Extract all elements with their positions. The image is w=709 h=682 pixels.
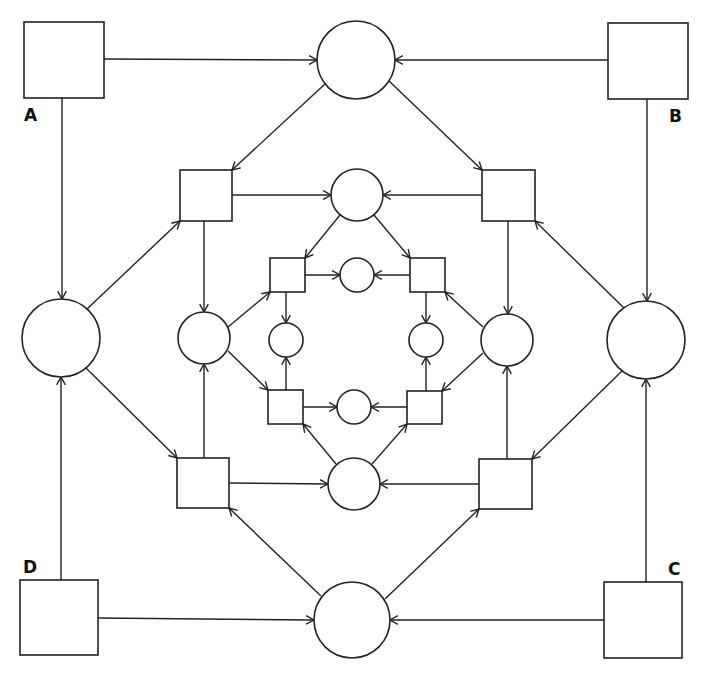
- arrow-c2Left-to-sq3TL: [228, 292, 270, 327]
- transition-sq3BL: [268, 390, 303, 424]
- arrow-sqA-to-cTop: [104, 56, 317, 65]
- arrow-sq3BL-to-c3Left: [282, 357, 291, 390]
- label-c: C: [668, 561, 680, 578]
- arrow-c2Right-to-sq3BR: [442, 353, 483, 391]
- transition-sq3BR: [407, 391, 442, 424]
- arrow-sqC-to-cRight: [642, 379, 651, 582]
- place-c3Right: [409, 323, 443, 357]
- diagram-canvas: [0, 0, 709, 682]
- arrow-sq2TL-to-c2Top: [232, 191, 331, 200]
- transition-sqD: [20, 580, 98, 655]
- arrow-sq2BL-to-c2Bottom: [229, 480, 328, 489]
- arrow-sq2TL-to-c2Left: [200, 221, 209, 312]
- arrow-cLeft-to-sq2TL: [87, 221, 180, 309]
- arrow-c2Left-to-sq3BL: [228, 351, 268, 390]
- arrow-cRight-to-sq2BR: [532, 371, 622, 459]
- arrow-c2Top-to-sq3TR: [374, 215, 410, 258]
- arrow-sq2BL-to-c2Left: [200, 364, 209, 458]
- arrow-sqD-to-cLeft: [57, 377, 66, 580]
- arrow-cBottom-to-sq2BL: [229, 508, 321, 596]
- transition-sq2BL: [177, 458, 229, 508]
- arrow-cTop-to-sq2TL: [232, 84, 325, 170]
- arrow-c2Right-to-sq3TR: [445, 292, 483, 327]
- arrow-cTop-to-sq2TR: [389, 81, 482, 170]
- petri-net-diagram: A B C D: [0, 0, 709, 682]
- arrow-sq3BL-to-c3Bottom: [303, 403, 337, 412]
- transition-sqC: [604, 582, 682, 658]
- arrow-sqD-to-cBottom: [98, 616, 314, 625]
- transition-sq2BR: [479, 459, 532, 509]
- arrow-sq3TL-to-c3Left: [282, 292, 291, 323]
- arrow-sq3TL-to-c3Top: [305, 271, 340, 280]
- place-c2Bottom: [328, 458, 380, 510]
- arrow-sqB-to-cTop: [395, 56, 608, 65]
- arrow-c2Bottom-to-sq3BL: [303, 424, 336, 464]
- transition-sq2TL: [180, 170, 232, 221]
- arrow-cBottom-to-sq2BR: [385, 509, 479, 599]
- arrow-sqC-to-cBottom: [390, 616, 604, 625]
- arrow-c2Top-to-sq3TL: [305, 215, 340, 258]
- arrow-sq3TR-to-c3Right: [422, 292, 431, 323]
- label-a: A: [24, 107, 37, 124]
- arrow-sq2BR-to-c2Bottom: [380, 480, 479, 489]
- nodes-layer: [20, 21, 688, 658]
- place-cTop: [317, 21, 395, 99]
- transition-sq3TL: [270, 258, 305, 292]
- label-d: D: [23, 559, 37, 576]
- arrow-sq3BR-to-c3Bottom: [371, 403, 407, 412]
- arrow-sq2TR-to-c2Right: [504, 221, 513, 314]
- arrow-c2Bottom-to-sq3BR: [372, 424, 407, 464]
- label-b: B: [669, 108, 682, 125]
- place-c2Right: [481, 314, 533, 366]
- arrow-sq2TR-to-c2Top: [383, 191, 482, 200]
- place-c3Top: [340, 258, 374, 292]
- transition-sq2TR: [482, 170, 535, 221]
- place-cRight: [607, 301, 685, 379]
- place-cBottom: [314, 582, 390, 658]
- place-c3Left: [269, 323, 303, 357]
- place-c2Left: [178, 312, 230, 364]
- transition-sqB: [608, 23, 688, 99]
- arrow-sqB-to-cRight: [643, 99, 652, 301]
- place-c2Top: [331, 169, 383, 221]
- edges-layer: [57, 56, 652, 625]
- transition-sq3TR: [410, 258, 445, 292]
- arrow-cRight-to-sq2TR: [535, 221, 624, 308]
- place-c3Bottom: [337, 390, 371, 424]
- place-cLeft: [22, 299, 100, 377]
- arrow-sq3TR-to-c3Top: [374, 271, 410, 280]
- arrow-sq2BR-to-c2Right: [503, 366, 512, 459]
- arrow-sq3BR-to-c3Right: [422, 357, 431, 391]
- arrow-cLeft-to-sq2BL: [86, 368, 177, 458]
- transition-sqA: [24, 22, 104, 98]
- arrow-sqA-to-cLeft: [58, 98, 67, 299]
